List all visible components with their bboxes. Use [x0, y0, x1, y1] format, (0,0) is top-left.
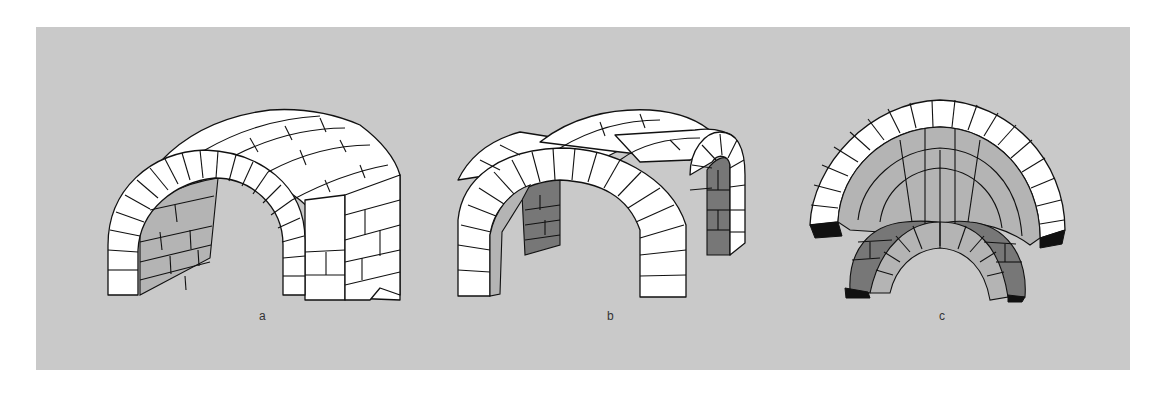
- vault-a-barrel: [108, 110, 400, 300]
- label-a: a: [259, 309, 266, 323]
- vault-b-groin: [458, 110, 745, 297]
- vault-illustrations: .st { fill: #ffffff; stroke: #111; strok…: [0, 0, 1162, 395]
- label-c: c: [939, 309, 945, 323]
- label-b: b: [607, 309, 614, 323]
- vault-c-groin-below: [810, 100, 1065, 302]
